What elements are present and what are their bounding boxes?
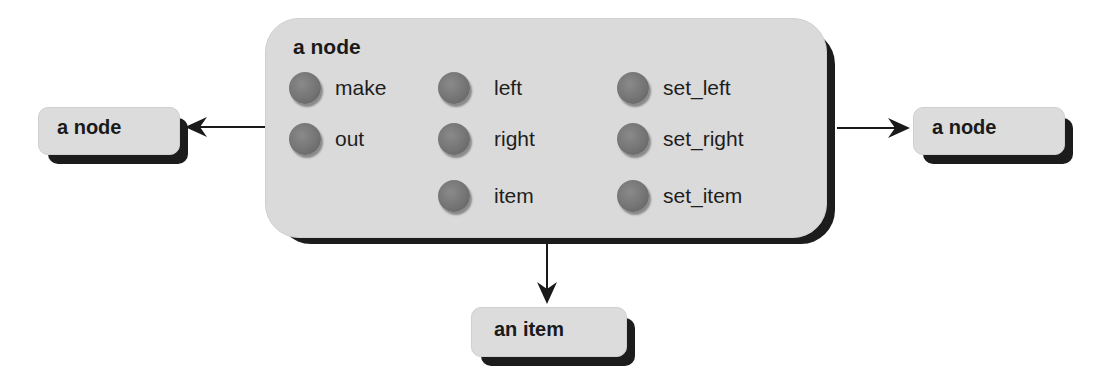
left-node-label: a node: [57, 116, 121, 139]
feature-label: out: [335, 127, 364, 151]
feature-dot-icon: [617, 180, 649, 212]
feature-label: set_item: [663, 184, 742, 208]
feature-item[interactable]: item: [438, 180, 534, 212]
feature-dot-icon: [289, 123, 321, 155]
feature-set-left[interactable]: set_left: [617, 72, 731, 104]
main-node[interactable]: a node make out left right item set_left…: [265, 18, 827, 238]
feature-label: item: [494, 184, 534, 208]
feature-dot-icon: [617, 123, 649, 155]
edge-line-left: [200, 126, 265, 128]
right-node[interactable]: a node: [913, 107, 1065, 155]
arrowhead-down-icon: [536, 282, 558, 304]
feature-set-right[interactable]: set_right: [617, 123, 744, 155]
bottom-node-label: an item: [494, 318, 564, 341]
main-node-title: a node: [293, 35, 361, 59]
feature-label: make: [335, 76, 386, 100]
left-node[interactable]: a node: [38, 107, 180, 155]
feature-make[interactable]: make: [289, 72, 386, 104]
feature-set-item[interactable]: set_item: [617, 180, 742, 212]
arrowhead-right-icon: [888, 117, 910, 139]
feature-dot-icon: [617, 72, 649, 104]
feature-left[interactable]: left: [438, 72, 522, 104]
bottom-node[interactable]: an item: [471, 307, 627, 357]
feature-label: right: [494, 127, 535, 151]
feature-dot-icon: [289, 72, 321, 104]
feature-dot-icon: [438, 72, 470, 104]
feature-label: set_left: [663, 76, 731, 100]
arrowhead-left-icon: [185, 116, 207, 138]
feature-dot-icon: [438, 123, 470, 155]
feature-out[interactable]: out: [289, 123, 364, 155]
right-node-label: a node: [932, 116, 996, 139]
feature-right[interactable]: right: [438, 123, 535, 155]
feature-dot-icon: [438, 180, 470, 212]
feature-label: set_right: [663, 127, 744, 151]
feature-label: left: [494, 76, 522, 100]
